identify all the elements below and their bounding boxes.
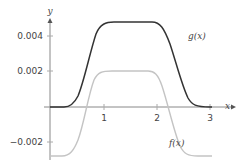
x-tick-label: 3 <box>207 113 213 123</box>
x-axis-arrow-icon <box>231 105 236 110</box>
y-axis-label: y <box>46 6 53 16</box>
chart: 1 2 3 0.004 0.002 −0.002 y x g(x) f(x) <box>0 0 239 165</box>
y-tick-label: 0.002 <box>17 66 43 76</box>
f-curve-label: f(x) <box>168 138 185 148</box>
x-tick-label: 2 <box>154 113 160 123</box>
g-curve-label: g(x) <box>188 31 206 41</box>
y-axis-arrow-icon <box>48 18 53 23</box>
x-tick-label: 1 <box>101 113 107 123</box>
x-axis-label: x <box>225 101 230 111</box>
y-tick-label: 0.004 <box>17 31 43 41</box>
f-curve <box>50 71 212 156</box>
y-tick-label: −0.002 <box>10 137 43 147</box>
